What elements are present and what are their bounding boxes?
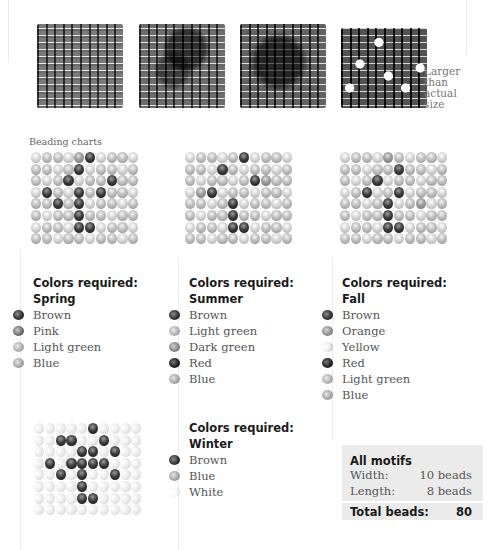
bead-icon [394, 175, 404, 186]
bead-icon [437, 187, 447, 198]
legend-season: Fall [342, 291, 447, 307]
dark-bead-icon [394, 187, 404, 198]
bead-icon [228, 233, 238, 244]
bead-icon [110, 493, 120, 504]
bead-icon [416, 164, 426, 175]
blue-bead-icon [169, 471, 180, 481]
bead-icon [239, 164, 249, 175]
bead-icon [372, 152, 382, 163]
width-value: 10 beads [419, 468, 472, 482]
spring-color-legend: Colors required: Spring BrownPinkLight g… [33, 275, 138, 371]
bead-icon [196, 175, 206, 186]
bead-icon [31, 233, 41, 244]
bead-icon [282, 198, 292, 209]
bead-icon [196, 233, 206, 244]
legend-color-label: Brown [342, 308, 380, 322]
spring-bead-photo [37, 24, 123, 108]
legend-color-label: Blue [33, 356, 59, 370]
dark-bead-icon [228, 222, 238, 233]
bead-icon [110, 504, 120, 515]
bead-icon [351, 222, 361, 233]
bead-icon [351, 175, 361, 186]
bead-icon [45, 481, 55, 492]
bead-icon [405, 175, 415, 186]
bead-icon [85, 233, 95, 244]
bead-icon [271, 187, 281, 198]
bead-icon [261, 175, 271, 186]
bead-icon [362, 198, 372, 209]
fall-color-legend: Colors required: Fall BrownOrangeYellowR… [342, 275, 447, 403]
dark-bead-icon [394, 222, 404, 233]
summary-width: Width: 10 beads [350, 468, 472, 482]
bead-icon [239, 198, 249, 209]
blue-bead-icon [13, 358, 24, 368]
bead-icon [383, 175, 393, 186]
bead-icon [117, 222, 127, 233]
bead-icon [362, 152, 372, 163]
bead-icon [99, 446, 109, 457]
bead-icon [351, 233, 361, 244]
bead-icon [239, 187, 249, 198]
bead-icon [362, 210, 372, 221]
legend-color-label: Blue [189, 469, 215, 483]
yellow-bead-icon [322, 342, 333, 352]
bead-icon [250, 210, 260, 221]
bead-icon [117, 233, 127, 244]
bead-icon [42, 210, 52, 221]
bead-icon [261, 152, 271, 163]
legend-color-label: Blue [189, 372, 215, 386]
bead-icon [120, 469, 130, 480]
lightgreen-bead-icon [322, 374, 333, 384]
bead-icon [250, 198, 260, 209]
legend-color-brown: Brown [189, 452, 294, 468]
dark-bead-icon [110, 469, 120, 480]
red-bead-icon [169, 358, 180, 368]
dark-bead-icon [239, 152, 249, 163]
bead-icon [426, 164, 436, 175]
length-label: Length: [350, 484, 395, 498]
legend-color-label: Red [189, 356, 212, 370]
bead-icon [383, 187, 393, 198]
bead-icon [282, 233, 292, 244]
bead-icon [437, 164, 447, 175]
bead-icon [131, 504, 141, 515]
bead-icon [107, 210, 117, 221]
bead-icon [239, 233, 249, 244]
bead-icon [261, 187, 271, 198]
bead-icon [131, 423, 141, 434]
bead-icon [74, 233, 84, 244]
bead-icon [53, 164, 63, 175]
bead-icon [282, 175, 292, 186]
legend-season: Spring [33, 291, 138, 307]
fall-bead-chart [340, 152, 448, 245]
dark-bead-icon [383, 210, 393, 221]
spring-bead-chart [31, 152, 139, 245]
column-divider [20, 250, 21, 550]
bead-icon [131, 446, 141, 457]
bead-icon [107, 198, 117, 209]
bead-icon [107, 233, 117, 244]
bead-icon [66, 446, 76, 457]
bead-icon [34, 423, 44, 434]
bead-icon [56, 493, 66, 504]
bead-icon [217, 233, 227, 244]
bead-icon [74, 175, 84, 186]
legend-season: Winter [189, 436, 294, 452]
bead-icon [372, 222, 382, 233]
bead-icon [96, 152, 106, 163]
bead-icon [282, 152, 292, 163]
dark-bead-icon [96, 187, 106, 198]
bead-icon [340, 222, 350, 233]
bead-icon [271, 233, 281, 244]
bead-icon [99, 469, 109, 480]
legend-color-orange: Orange [342, 323, 447, 339]
bead-icon [120, 481, 130, 492]
bead-icon [110, 423, 120, 434]
legend-color-brown: Brown [342, 307, 447, 323]
bead-icon [185, 210, 195, 221]
dark-bead-icon [239, 222, 249, 233]
legend-color-label: Red [342, 356, 365, 370]
bead-icon [128, 152, 138, 163]
bead-icon [88, 504, 98, 515]
dark-bead-icon [362, 187, 372, 198]
